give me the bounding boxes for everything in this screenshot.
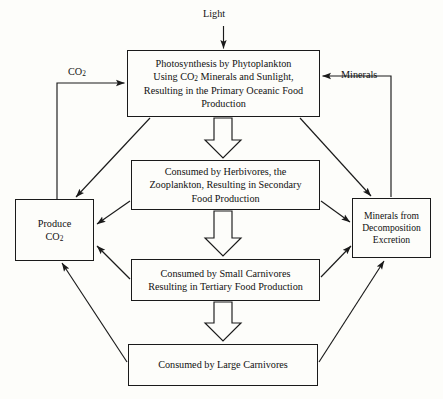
edge-label-minerals: Minerals (341, 69, 377, 80)
edge-small-carnivores-to-minerals (321, 246, 351, 277)
node-photosynthesis-line2a: Using CO (153, 71, 194, 82)
edge-large-carnivores-to-produce-co2 (62, 263, 127, 362)
node-produce-co2-subscript: 2 (60, 234, 64, 243)
node-produce-co2-line1: Produce (38, 218, 71, 229)
node-herbivores: Consumed by Herbivores, the Zooplankton,… (131, 160, 320, 210)
node-minerals-from-label: Minerals from Decomposition Excretion (358, 210, 425, 247)
node-photosynthesis: Photosynthesis by PhytoplanktonUsing CO2… (127, 50, 320, 117)
node-herbivores-label: Consumed by Herbivores, the Zooplankton,… (145, 165, 305, 204)
node-produce-co2-label: ProduceCO2 (34, 217, 75, 244)
edge-label-co2: CO2 (68, 66, 86, 78)
block-arrow-small-carnivores-to-large-carnivores (205, 302, 241, 341)
node-photosynthesis-line4: Production (201, 98, 246, 109)
node-large-carnivores-label: Consumed by Large Carnivores (154, 358, 292, 371)
edge-herbivores-to-minerals (321, 201, 350, 222)
edge-label-light: Light (203, 8, 225, 19)
edge-minerals-to-photosynthesis (323, 76, 392, 197)
edge-label-co2-text: CO (68, 66, 82, 77)
edge-large-carnivores-to-minerals (319, 261, 384, 362)
node-photosynthesis-line2b: Minerals and Sunlight, (198, 71, 294, 82)
node-produce-co2-line2: CO (46, 231, 60, 242)
node-produce-co2: ProduceCO2 (15, 199, 94, 261)
block-arrow-photosynthesis-to-herbivores (205, 118, 241, 158)
node-small-carnivores-label: Consumed by Small Carnivores Resulting i… (144, 267, 307, 293)
node-minerals-from-decomposition: Minerals from Decomposition Excretion (352, 198, 431, 258)
edge-label-co2-subscript: 2 (82, 69, 86, 78)
edge-small-carnivores-to-produce-co2 (97, 246, 130, 279)
diagram-canvas: Light CO2 Minerals Photosynthesis by Phy… (0, 0, 443, 399)
node-photosynthesis-label: Photosynthesis by PhytoplanktonUsing CO2… (140, 57, 307, 110)
node-large-carnivores: Consumed by Large Carnivores (128, 344, 318, 386)
node-photosynthesis-line1: Photosynthesis by Phytoplankton (156, 58, 292, 69)
node-photosynthesis-line3: Resulting in the Primary Oceanic Food (144, 85, 303, 96)
block-arrow-herbivores-to-small-carnivores (205, 211, 241, 256)
edge-herbivores-to-produce-co2 (97, 201, 130, 224)
node-small-carnivores: Consumed by Small Carnivores Resulting i… (131, 259, 320, 301)
